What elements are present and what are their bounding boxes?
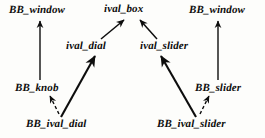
node-bb-ival-slider[interactable]: BB_ival_slider: [157, 118, 226, 130]
inheritance-diagram: BB_window ival_box BB_window ival_dial i…: [0, 0, 265, 138]
node-bb-window-right[interactable]: BB_window: [189, 4, 245, 16]
node-ival-slider[interactable]: ival_slider: [140, 40, 188, 52]
edge-ival-dial-to-ival-box: [101, 20, 124, 39]
edge-ival-slider-to-ival-box: [140, 20, 157, 39]
node-bb-slider[interactable]: BB_slider: [195, 82, 241, 94]
node-bb-window-left[interactable]: BB_window: [9, 4, 65, 16]
edge-bb-ival-dial-to-bb-knob: [50, 96, 59, 114]
node-bb-ival-dial[interactable]: BB_ival_dial: [26, 118, 86, 130]
node-bb-knob[interactable]: BB_knob: [15, 82, 59, 94]
node-ival-box[interactable]: ival_box: [104, 3, 143, 15]
edge-bb-ival-slider-to-bb-slider: [200, 96, 209, 114]
node-ival-dial[interactable]: ival_dial: [66, 40, 106, 52]
edge-bb-ival-dial-to-ival-dial: [61, 56, 95, 117]
edge-bb-ival-slider-to-ival-slider: [161, 56, 196, 117]
